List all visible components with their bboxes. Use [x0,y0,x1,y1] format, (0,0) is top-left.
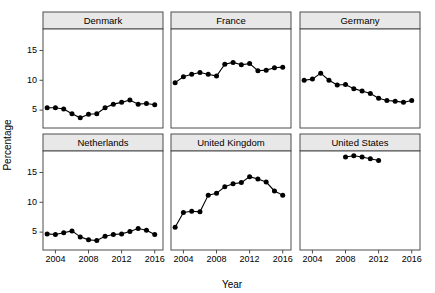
data-point [94,111,99,116]
data-point [264,68,269,73]
data-point [103,234,108,239]
data-point [136,226,141,231]
x-tick-label: 2008 [336,254,356,264]
data-point [384,98,389,103]
data-point [231,181,236,186]
data-point [152,232,157,237]
x-tick-label: 2016 [402,254,422,264]
y-tick-label: 5 [32,226,37,236]
data-point [189,209,194,214]
data-point [280,65,285,70]
data-point [239,62,244,67]
facet-plot-area [171,151,291,250]
y-tick-label: 15 [27,45,37,55]
data-point [343,154,348,159]
data-point [181,210,186,215]
data-point [376,158,381,163]
y-tick-label: 10 [27,197,37,207]
data-point [53,105,58,110]
data-point [111,232,116,237]
data-point [45,231,50,236]
x-tick-label: 2012 [240,254,260,264]
x-tick-label: 2004 [173,254,193,264]
facet-panel: Germany [300,12,420,128]
facet-strip-label: France [216,15,246,26]
data-point [239,180,244,185]
facet-chart-container: DenmarkFranceGermanyNetherlandsUnited Ki… [0,0,435,293]
data-point [69,111,74,116]
data-point [368,156,373,161]
facet-plot-area [300,29,420,128]
facet-panel: United States [300,134,420,250]
data-point [264,180,269,185]
y-tick-label: 15 [27,167,37,177]
data-point [144,228,149,233]
data-point [61,230,66,235]
data-point [69,228,74,233]
facet-plot-area [300,151,420,250]
data-point [111,102,116,107]
x-tick-label: 2012 [369,254,389,264]
data-point [214,191,219,196]
data-point [222,62,227,67]
data-point [368,91,373,96]
x-tick-label: 2004 [45,254,65,264]
data-point [222,184,227,189]
data-point [272,188,277,193]
data-point [189,72,194,77]
data-point [393,99,398,104]
data-point [247,174,252,179]
data-point [302,78,307,83]
data-point [326,78,331,83]
y-tick-label: 10 [27,75,37,85]
data-point [152,102,157,107]
data-point [280,193,285,198]
data-point [127,229,132,234]
data-point [136,102,141,107]
data-point [86,237,91,242]
facet-strip-label: United Kingdom [197,137,265,148]
x-tick-label: 2004 [302,254,322,264]
data-point [119,231,124,236]
x-tick-label: 2008 [207,254,227,264]
data-point [272,65,277,70]
x-tick-label: 2016 [145,254,165,264]
data-point [78,115,83,120]
data-point [94,238,99,243]
data-point [255,177,260,182]
data-point [173,80,178,85]
facet-plot-area [171,29,291,128]
data-point [247,61,252,66]
data-point [376,96,381,101]
data-point [231,60,236,65]
data-point [61,106,66,111]
facet-strip-label: United States [331,137,388,148]
facet-panel: France [171,12,291,128]
x-tick-label: 2012 [112,254,132,264]
data-point [53,232,58,237]
panels-layer: DenmarkFranceGermanyNetherlandsUnited Ki… [43,12,420,250]
data-point [197,209,202,214]
data-point [351,86,356,91]
data-point [197,70,202,75]
facet-plot-area [43,29,163,128]
data-point [181,74,186,79]
y-tick-label: 5 [32,104,37,114]
x-tick-label: 2016 [273,254,293,264]
data-point [144,101,149,106]
y-axis-title: Percentage [2,119,13,171]
data-point [119,100,124,105]
data-point [310,77,315,82]
data-point [127,97,132,102]
data-point [351,153,356,158]
data-point [45,105,50,110]
facet-strip-label: Denmark [84,15,123,26]
data-point [360,154,365,159]
facet-strip-label: Netherlands [77,137,128,148]
data-point [318,71,323,76]
data-point [206,72,211,77]
data-point [409,98,414,103]
facet-panel: United Kingdom [171,134,291,250]
data-point [255,68,260,73]
x-axis-title: Year [222,279,243,290]
